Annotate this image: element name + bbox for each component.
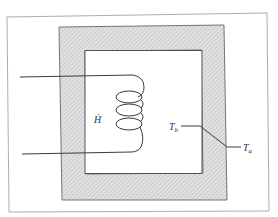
inner-chamber (85, 51, 202, 174)
heat-transfer-diagram: Ḣ Tb Ta (0, 0, 278, 217)
heater-label: Ḣ (93, 114, 102, 125)
